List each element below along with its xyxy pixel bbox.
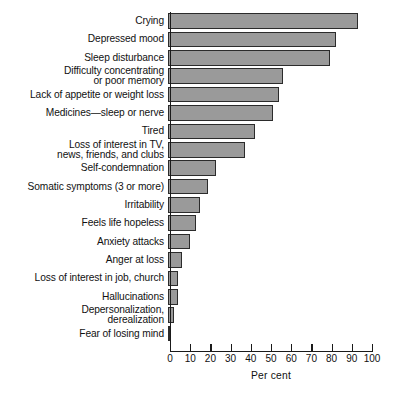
- bar-row: Fear of losing mind: [0, 325, 406, 343]
- bar-row: Difficulty concentrating or poor memory: [0, 67, 406, 85]
- x-tick-label: 40: [245, 353, 256, 364]
- bar-track: [168, 86, 406, 104]
- bar-rows: CryingDepressed moodSleep disturbanceDif…: [0, 12, 406, 343]
- bar-track: [168, 214, 406, 232]
- bar-track: [168, 67, 406, 85]
- y-axis-line: [170, 12, 171, 351]
- bar-track: [168, 196, 406, 214]
- x-tick-label: 90: [346, 353, 357, 364]
- bar-row: Somatic symptoms (3 or more): [0, 178, 406, 196]
- bar-row: Feels life hopeless: [0, 214, 406, 232]
- bar-track: [168, 269, 406, 287]
- bar: [168, 179, 208, 195]
- category-label: Tired: [0, 126, 168, 136]
- x-tick: [332, 344, 333, 351]
- x-tick-label: 10: [185, 353, 196, 364]
- bar-row: Anger at loss: [0, 251, 406, 269]
- bar-row: Irritability: [0, 196, 406, 214]
- bar-row: Depressed mood: [0, 30, 406, 48]
- x-tick: [271, 344, 272, 351]
- bar-track: [168, 251, 406, 269]
- category-label: Anxiety attacks: [0, 237, 168, 247]
- bar: [168, 87, 279, 103]
- bar-track: [168, 141, 406, 159]
- bar-track: [168, 12, 406, 30]
- bar-track: [168, 325, 406, 343]
- category-label: Difficulty concentrating or poor memory: [0, 66, 168, 87]
- category-label: Loss of interest in job, church: [0, 273, 168, 283]
- bar: [168, 234, 190, 250]
- category-label: Crying: [0, 16, 168, 26]
- x-tick-label: 20: [205, 353, 216, 364]
- bar-track: [168, 49, 406, 67]
- category-label: Loss of interest in TV, news, friends, a…: [0, 140, 168, 161]
- bar-row: Depersonalization, derealization: [0, 306, 406, 324]
- x-tick: [291, 344, 292, 351]
- x-tick: [311, 344, 312, 351]
- category-label: Depersonalization, derealization: [0, 305, 168, 326]
- bar-track: [168, 104, 406, 122]
- category-label: Self-condemnation: [0, 163, 168, 173]
- x-tick-label: 30: [225, 353, 236, 364]
- bar-row: Loss of interest in job, church: [0, 269, 406, 287]
- x-tick: [170, 344, 171, 351]
- bar-track: [168, 233, 406, 251]
- bar-track: [168, 306, 406, 324]
- bar-row: Loss of interest in TV, news, friends, a…: [0, 141, 406, 159]
- x-tick-label: 100: [364, 353, 381, 364]
- bar: [168, 142, 245, 158]
- x-tick: [251, 344, 252, 351]
- bar-track: [168, 30, 406, 48]
- bar-track: [168, 159, 406, 177]
- category-label: Medicines—sleep or nerve: [0, 108, 168, 118]
- category-label: Sleep disturbance: [0, 53, 168, 63]
- category-label: Fear of losing mind: [0, 329, 168, 339]
- bar-row: Anxiety attacks: [0, 233, 406, 251]
- bar-row: Sleep disturbance: [0, 49, 406, 67]
- x-tick-label: 70: [306, 353, 317, 364]
- x-tick: [190, 344, 191, 351]
- bar-row: Hallucinations: [0, 288, 406, 306]
- x-tick-label: 80: [326, 353, 337, 364]
- bar: [168, 215, 196, 231]
- x-tick: [372, 344, 373, 351]
- bar-row: Crying: [0, 12, 406, 30]
- category-label: Hallucinations: [0, 292, 168, 302]
- bar-row: Medicines—sleep or nerve: [0, 104, 406, 122]
- bar-row: Tired: [0, 122, 406, 140]
- bar: [168, 124, 255, 140]
- category-label: Lack of appetite or weight loss: [0, 90, 168, 100]
- category-label: Anger at loss: [0, 255, 168, 265]
- bar: [168, 68, 283, 84]
- x-tick-label: 50: [265, 353, 276, 364]
- category-label: Irritability: [0, 200, 168, 210]
- bar: [168, 197, 200, 213]
- x-axis-title: Per cent: [251, 370, 291, 381]
- x-tick: [352, 344, 353, 351]
- category-label: Somatic symptoms (3 or more): [0, 182, 168, 192]
- bar-track: [168, 122, 406, 140]
- bar: [168, 160, 216, 176]
- percent-symptom-bar-chart: CryingDepressed moodSleep disturbanceDif…: [0, 0, 406, 396]
- x-tick-label: 60: [286, 353, 297, 364]
- category-label: Depressed mood: [0, 34, 168, 44]
- x-tick: [210, 344, 211, 351]
- bar: [168, 105, 273, 121]
- bar-row: Lack of appetite or weight loss: [0, 86, 406, 104]
- bar-row: Self-condemnation: [0, 159, 406, 177]
- bar-track: [168, 288, 406, 306]
- bar: [168, 13, 358, 29]
- bar-track: [168, 178, 406, 196]
- bar: [168, 50, 330, 66]
- x-tick: [231, 344, 232, 351]
- x-tick-label: 0: [167, 353, 173, 364]
- bar: [168, 32, 336, 48]
- category-label: Feels life hopeless: [0, 218, 168, 228]
